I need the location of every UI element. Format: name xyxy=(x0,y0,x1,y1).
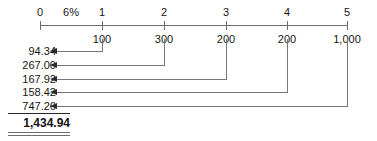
axis-tick-4 xyxy=(287,21,288,30)
period-label-3: 3 xyxy=(223,7,229,18)
discount-connector-horizontal xyxy=(57,65,164,66)
discount-arrowhead xyxy=(50,48,57,54)
axis-tick-2 xyxy=(164,21,165,30)
total-double-rule-lower xyxy=(8,135,70,136)
discount-connector-horizontal xyxy=(57,51,102,52)
axis-tick-3 xyxy=(226,21,227,30)
present-value-amount: 94.34 xyxy=(8,46,56,57)
axis-tick-1 xyxy=(102,21,103,30)
period-label-4: 4 xyxy=(284,7,290,18)
total-top-rule xyxy=(8,113,70,114)
discount-arrowhead xyxy=(50,89,57,95)
discount-arrowhead xyxy=(50,62,57,68)
discount-arrowhead xyxy=(50,103,57,109)
discount-connector-vertical xyxy=(287,39,288,93)
period-label-2: 2 xyxy=(161,7,167,18)
period-label-0: 0 xyxy=(37,7,43,18)
present-value-amount: 167.92 xyxy=(8,74,56,85)
present-value-amount: 747.26 xyxy=(8,101,56,112)
discount-connector-horizontal xyxy=(57,92,287,93)
discount-connector-vertical xyxy=(347,39,348,107)
total-value: 1,434.94 xyxy=(8,117,70,129)
present-value-amount: 158.42 xyxy=(8,87,56,98)
total-double-rule-upper xyxy=(8,132,70,133)
discount-connector-horizontal xyxy=(57,106,347,107)
discount-connector-horizontal xyxy=(57,79,226,80)
discount-connector-vertical xyxy=(226,39,227,80)
axis-tick-0 xyxy=(40,21,41,30)
period-label-5: 5 xyxy=(344,7,350,18)
discount-arrowhead xyxy=(50,76,57,82)
discount-rate-label: 6% xyxy=(63,7,79,18)
axis-tick-5 xyxy=(347,21,348,30)
period-label-1: 1 xyxy=(99,7,105,18)
timeline-axis xyxy=(40,25,348,26)
time-value-of-money-diagram: 0110023003200420051,000 6% 94.34267.0016… xyxy=(0,0,377,141)
discount-connector-vertical xyxy=(102,39,103,52)
present-value-amount: 267.00 xyxy=(8,60,56,71)
discount-connector-vertical xyxy=(164,39,165,66)
